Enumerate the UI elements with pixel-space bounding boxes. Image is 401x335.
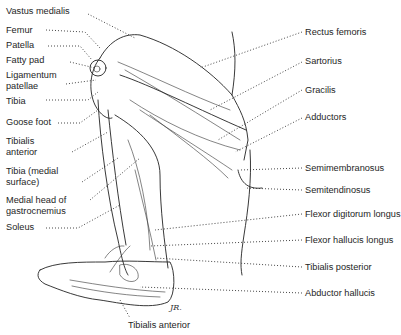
calf-fiber-1 — [128, 140, 150, 250]
label-ligamentum-patellae: Ligamentum patellae — [6, 70, 66, 91]
label-patella: Patella — [6, 40, 34, 51]
label-semitendinosus: Semitendinosus — [305, 185, 370, 196]
label-fatty-pad: Fatty pad — [6, 55, 44, 66]
thigh-lower-contour — [120, 75, 246, 130]
label-tibialis-anterior: Tibialis anterior — [6, 136, 56, 157]
label-vastus-medialis: Vastus medialis — [6, 6, 70, 17]
leader-gracilis — [218, 90, 302, 140]
fatty-pad-shape — [94, 66, 100, 72]
leader-goose-foot — [58, 110, 98, 123]
label-sartorius: Sartorius — [305, 56, 342, 67]
skin-contour — [241, 150, 251, 275]
patella-shape — [90, 60, 106, 76]
leader-gastrocnemius — [90, 158, 140, 200]
thigh-upper-contour — [232, 32, 235, 95]
leader-semimembranosus — [240, 168, 302, 170]
label-tibia-medial-surface: Tibia (medial surface) — [6, 166, 82, 187]
label-tibialis-anterior-bottom: Tibialis anterior — [128, 320, 190, 331]
label-flexor-hallucis-longus: Flexor hallucis longus — [305, 235, 393, 246]
thigh-fiber-4 — [140, 110, 232, 170]
foot-tendon-1 — [70, 280, 165, 292]
label-femur: Femur — [6, 25, 33, 36]
leader-femur — [46, 30, 100, 48]
label-adductors: Adductors — [305, 112, 346, 123]
knee-outline — [91, 58, 112, 118]
leader-patella — [48, 46, 92, 60]
leader-flexor-hallucis — [150, 240, 302, 246]
label-gracilis: Gracilis — [305, 85, 336, 96]
label-rectus-femoris: Rectus femoris — [305, 27, 366, 38]
label-flexor-digitorum-longus: Flexor digitorum longus — [305, 209, 401, 220]
foot-outline — [38, 261, 174, 306]
label-tibia: Tibia — [6, 96, 26, 107]
foot-bone-1 — [120, 264, 138, 281]
calf-outline — [115, 115, 168, 268]
leader-tibialis-posterior — [155, 258, 302, 267]
leader-tibialis-anterior-bottom — [120, 300, 130, 318]
leader-semitendinosus — [245, 188, 302, 190]
leader-fatty-pad — [70, 62, 95, 68]
label-tibialis-posterior: Tibialis posterior — [305, 262, 372, 273]
label-goose-foot: Goose foot — [6, 117, 51, 128]
label-abductor-hallucis: Abductor hallucis — [305, 288, 375, 299]
leader-tibia — [46, 92, 98, 100]
foot-tendon-2 — [72, 286, 160, 297]
leader-vastus-medialis — [88, 14, 135, 38]
leader-flexor-digitorum — [155, 214, 302, 230]
shin-front — [98, 100, 128, 275]
calf-fiber-2 — [135, 170, 156, 260]
label-medial-head-gastrocnemius: Medial head of gastrocnemius — [6, 195, 90, 216]
label-soleus: Soleus — [6, 222, 34, 233]
leader-tibia-medial-surface — [82, 158, 118, 182]
leader-rectus-femoris — [200, 32, 302, 68]
artist-signature: JR. — [170, 303, 182, 312]
shin-inner — [108, 110, 126, 245]
label-semimembranosus: Semimembranosus — [305, 163, 384, 174]
